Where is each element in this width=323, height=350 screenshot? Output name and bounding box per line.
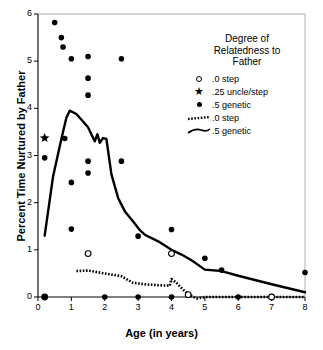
- legend-entry: .0 step: [186, 73, 308, 85]
- point-genetic: [69, 56, 75, 62]
- point-genetic: [52, 20, 58, 26]
- dotted-line-icon: [187, 114, 211, 122]
- chart-figure: 012345678 0123456 Age (in years) Percent…: [0, 0, 323, 350]
- point-genetic: [169, 294, 175, 300]
- point-genetic: [135, 294, 141, 300]
- legend-entry-label: .25 uncle/step: [212, 87, 268, 97]
- legend: Degree of Relatedness to Father .0 step★…: [186, 33, 308, 138]
- x-tick-label: 8: [293, 302, 317, 312]
- legend-entry-label: .0 step: [212, 113, 239, 123]
- point-genetic: [135, 233, 141, 239]
- legend-entry: .5 genetic: [186, 125, 308, 137]
- point-uncle-step: [40, 133, 50, 142]
- point-genetic: [235, 294, 241, 300]
- legend-symbol-solid-line: [186, 127, 212, 135]
- point-step: [169, 251, 175, 257]
- legend-title: Degree of Relatedness to Father: [186, 33, 308, 68]
- x-axis-title: Age (in years): [0, 327, 323, 339]
- x-tick-label: 4: [160, 302, 184, 312]
- y-axis-title: Percent Time Nurtured by Father: [15, 31, 27, 281]
- point-genetic: [69, 226, 75, 232]
- point-step: [185, 292, 191, 298]
- legend-entry-label: .5 genetic: [212, 126, 251, 136]
- point-genetic: [85, 158, 91, 164]
- x-tick-label: 5: [193, 302, 217, 312]
- point-step: [85, 251, 91, 257]
- line-genetic: [45, 111, 305, 293]
- point-genetic: [59, 35, 65, 41]
- legend-entry: .0 step: [186, 112, 308, 124]
- point-genetic: [60, 44, 66, 50]
- y-tick-label: 0: [8, 291, 32, 301]
- x-tick-label: 3: [126, 302, 150, 312]
- filled-circle-icon: [197, 102, 202, 107]
- point-genetic: [119, 158, 125, 164]
- legend-symbol-open-circle: [186, 76, 212, 82]
- point-step: [269, 294, 275, 300]
- point-genetic: [42, 294, 48, 300]
- point-genetic: [85, 92, 91, 98]
- x-tick-label: 7: [260, 302, 284, 312]
- y-tick-label: 6: [8, 8, 32, 18]
- legend-symbol-star: ★: [186, 87, 212, 96]
- x-tick-label: 0: [26, 302, 50, 312]
- point-genetic: [119, 56, 125, 62]
- legend-entry-label: .5 genetic: [212, 100, 251, 110]
- point-genetic: [69, 180, 75, 186]
- legend-entry-label: .0 step: [212, 74, 239, 84]
- x-tick-label: 1: [59, 302, 83, 312]
- point-genetic: [102, 294, 108, 300]
- open-circle-icon: [196, 76, 202, 82]
- legend-symbol-filled-circle: [186, 102, 212, 107]
- point-genetic: [85, 54, 91, 60]
- point-genetic: [169, 227, 175, 233]
- point-genetic: [85, 170, 91, 176]
- legend-entry: ★.25 uncle/step: [186, 86, 308, 98]
- series-lines: [45, 111, 305, 299]
- point-genetic: [62, 136, 68, 142]
- legend-entry: .5 genetic: [186, 99, 308, 111]
- point-genetic: [302, 270, 308, 276]
- point-genetic: [85, 75, 91, 81]
- solid-line-icon: [187, 127, 211, 135]
- legend-entries: .0 step★.25 uncle/step.5 genetic.0 step.…: [186, 73, 308, 137]
- point-genetic: [42, 155, 48, 161]
- star-icon: ★: [194, 87, 204, 96]
- point-genetic: [202, 256, 208, 262]
- x-tick-label: 6: [226, 302, 250, 312]
- x-tick-label: 2: [93, 302, 117, 312]
- point-genetic: [219, 267, 225, 273]
- legend-symbol-dotted-line: [186, 114, 212, 122]
